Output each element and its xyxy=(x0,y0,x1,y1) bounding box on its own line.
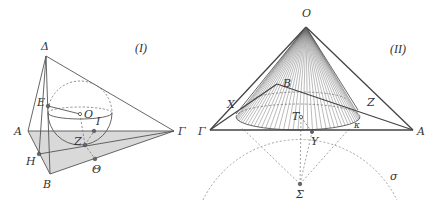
cone-generator-line xyxy=(241,27,306,122)
dash-sigma-t xyxy=(300,117,301,184)
caption-figure-2: (II) xyxy=(390,42,406,56)
label-x: X xyxy=(226,98,236,111)
cone-generator-line xyxy=(306,27,351,124)
label-y: Y xyxy=(311,135,320,148)
label-delta: Δ xyxy=(40,40,49,53)
label-o2: O xyxy=(302,7,311,20)
label-h: H xyxy=(25,155,36,168)
label-gamma2: Γ xyxy=(197,125,206,138)
cone-generator-line xyxy=(306,27,348,125)
label-e: E xyxy=(36,96,45,109)
point-o xyxy=(78,112,81,115)
point-i xyxy=(92,129,96,133)
point-sigma xyxy=(298,182,302,186)
dash-sigma-k xyxy=(300,128,350,184)
figure-1: Δ A Γ B H E O I Z Θ (I) xyxy=(13,40,186,191)
label-gamma: Γ xyxy=(177,125,186,138)
point-t xyxy=(299,115,302,118)
label-o: O xyxy=(84,108,93,121)
cone-generator-line xyxy=(306,27,334,128)
cone-generator-line xyxy=(306,27,330,128)
label-kappa: κ xyxy=(353,120,360,130)
label-b: B xyxy=(42,178,51,191)
point-y xyxy=(310,130,313,133)
edge-b-a xyxy=(277,84,413,130)
label-theta: Θ xyxy=(92,163,101,176)
label-sigma-lower: σ xyxy=(390,170,398,183)
point-e xyxy=(46,104,50,108)
cone-generator-line xyxy=(306,27,357,121)
label-i: I xyxy=(95,115,101,128)
cone-generator-line xyxy=(243,27,306,123)
caption-figure-1: (I) xyxy=(135,41,147,55)
label-a2: A xyxy=(416,125,425,138)
edge-o-x xyxy=(236,27,306,114)
label-z2: Z xyxy=(366,96,375,109)
edge-delta-gamma xyxy=(46,56,174,131)
label-b2: B xyxy=(282,77,291,90)
figure-2: O Γ A B X Z T Y Σ κ σ (II) xyxy=(197,7,425,201)
cone-generator-line xyxy=(306,27,345,125)
label-sigma-upper: Σ xyxy=(295,188,304,201)
point-h xyxy=(37,152,41,156)
diagram-canvas: Δ A Γ B H E O I Z Θ (I) xyxy=(0,0,437,212)
dash-sigma-x xyxy=(242,128,300,184)
point-theta xyxy=(93,157,97,161)
label-a: A xyxy=(13,125,22,138)
label-z: Z xyxy=(73,135,82,148)
point-z xyxy=(83,143,87,147)
